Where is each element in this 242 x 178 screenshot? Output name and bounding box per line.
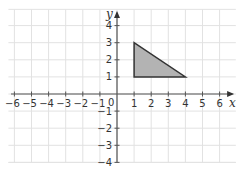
x-tick-label: 1 bbox=[131, 98, 137, 109]
y-tick-label: −3 bbox=[97, 140, 112, 151]
y-tick-label: −2 bbox=[97, 123, 112, 134]
y-tick-label: 2 bbox=[106, 54, 112, 65]
x-tick-label: 6 bbox=[216, 98, 222, 109]
x-tick-label: 3 bbox=[165, 98, 171, 109]
y-axis-label: y bbox=[105, 7, 113, 21]
x-tick-label: −3 bbox=[56, 98, 71, 109]
y-tick-label: 1 bbox=[106, 71, 112, 82]
x-tick-label: 4 bbox=[182, 98, 188, 109]
x-axis-label: x bbox=[229, 96, 236, 110]
x-tick-label: 5 bbox=[199, 98, 205, 109]
x-tick-label: −6 bbox=[5, 98, 20, 109]
y-tick-label: −4 bbox=[97, 157, 112, 168]
x-tick-label: 2 bbox=[148, 98, 154, 109]
grid-lines bbox=[8, 9, 235, 162]
origin-label: 0 bbox=[108, 97, 114, 108]
x-tick-label: −5 bbox=[22, 98, 37, 109]
coordinate-plane: −6−5−4−3−2−11234564321−1−2−3−4 x y 0 bbox=[0, 0, 242, 178]
y-axis-arrow-icon bbox=[114, 11, 120, 18]
y-tick-label: 4 bbox=[106, 20, 112, 31]
y-tick-label: 3 bbox=[106, 37, 112, 48]
x-tick-label: −2 bbox=[73, 98, 88, 109]
x-tick-label: −4 bbox=[39, 98, 54, 109]
axes bbox=[11, 11, 234, 162]
